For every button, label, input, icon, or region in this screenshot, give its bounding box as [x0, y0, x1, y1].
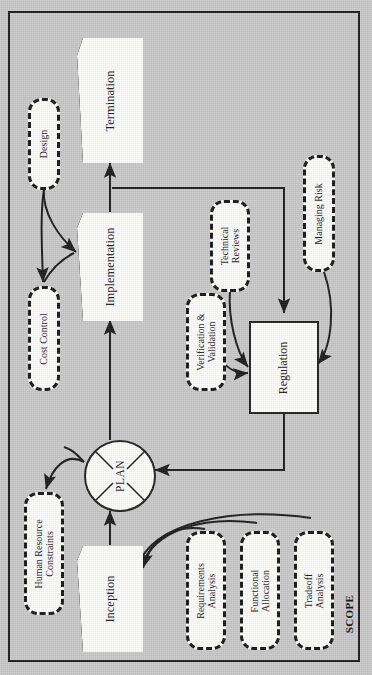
annotation-verification-label: Verification & Validation — [195, 313, 217, 370]
edge-cost-control-to-implementation — [44, 253, 74, 282]
node-implementation[interactable]: Implementation — [77, 213, 143, 321]
annotation-design-label: Design — [38, 130, 49, 158]
edge-technical-reviews-to-regulation — [230, 291, 248, 367]
edge-managing-risk-to-regulation — [318, 272, 331, 364]
edge-design-to-cost-control — [42, 189, 44, 282]
annotation-technical-reviews-label: Technical Reviews — [219, 227, 241, 266]
annotation-managing-risk-label: Managing Risk — [313, 183, 324, 244]
annotation-requirements-analysis-line1: Requirements — [195, 563, 206, 619]
annotation-technical-reviews-line1: Technical — [219, 227, 230, 266]
annotation-functional-allocation-label: Functional Allocation — [249, 569, 271, 612]
annotation-tradeoff-analysis-line1: Tradeoff — [303, 573, 314, 608]
annotation-verification-line1: Verification & — [195, 313, 206, 370]
node-regulation-label: Regulation — [277, 341, 290, 394]
scope-label: SCOPE — [343, 595, 355, 634]
node-implementation-label: Implementation — [103, 227, 117, 306]
annotation-requirements-analysis-line2: Analysis — [206, 563, 217, 619]
annotation-functional-allocation[interactable]: Functional Allocation — [240, 531, 280, 650]
annotation-cost-control[interactable]: Cost Control — [28, 286, 60, 391]
node-plan[interactable]: PLAN — [84, 440, 156, 512]
node-inception-label: Inception — [103, 575, 117, 622]
node-inception[interactable]: Inception — [77, 546, 143, 652]
edge-regulation-to-plan — [155, 414, 284, 470]
annotation-managing-risk[interactable]: Managing Risk — [303, 155, 335, 272]
annotation-functional-allocation-line1: Functional — [249, 569, 260, 612]
edge-design-to-implementation — [44, 189, 76, 252]
annotation-human-resource-line2: Constraints — [44, 519, 55, 588]
edge-plan-to-human-resource — [46, 459, 84, 489]
annotation-human-resource-label: Human Resource Constraints — [33, 519, 55, 588]
node-termination[interactable]: Termination — [77, 38, 143, 163]
node-termination-label: Termination — [103, 70, 117, 131]
annotation-functional-allocation-line2: Allocation — [260, 569, 271, 612]
annotation-verification[interactable]: Verification & Validation — [186, 293, 226, 391]
annotation-human-resource-line1: Human Resource — [33, 519, 44, 588]
annotation-technical-reviews-line2: Reviews — [230, 227, 241, 266]
annotation-requirements-analysis-label: Requirements Analysis — [195, 563, 217, 619]
annotation-human-resource[interactable]: Human Resource Constraints — [24, 492, 64, 615]
annotation-technical-reviews[interactable]: Technical Reviews — [210, 200, 250, 292]
annotation-verification-line2: Validation — [206, 313, 217, 370]
node-regulation[interactable]: Regulation — [249, 321, 319, 414]
annotation-cost-control-label: Cost Control — [38, 313, 49, 364]
annotation-tradeoff-analysis-line2: Analysis — [314, 573, 325, 608]
annotation-tradeoff-analysis-label: Tradeoff Analysis — [303, 573, 325, 608]
annotation-tradeoff-analysis[interactable]: Tradeoff Analysis — [294, 531, 334, 650]
node-plan-label: PLAN — [114, 460, 127, 492]
diagram-canvas: Termination Implementation PLAN Regulati… — [0, 0, 372, 675]
annotation-design[interactable]: Design — [28, 98, 60, 190]
annotation-requirements-analysis[interactable]: Requirements Analysis — [186, 531, 226, 650]
